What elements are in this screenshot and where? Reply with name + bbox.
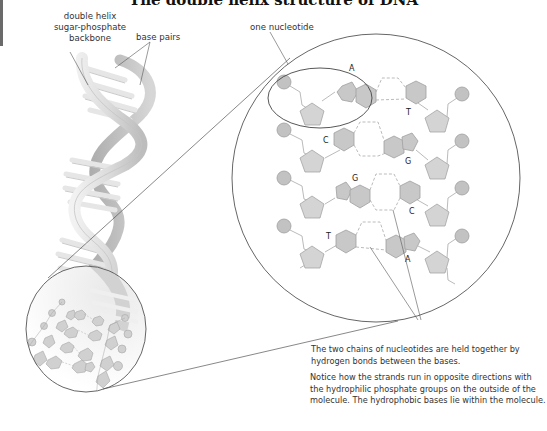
- phosphate: [455, 229, 469, 243]
- phosphate: [277, 171, 291, 185]
- phosphate: [277, 75, 291, 89]
- phosphate: [455, 87, 469, 101]
- phosphate: [277, 219, 291, 233]
- backbone-label: double helix sugar-phosphate backbone: [40, 11, 140, 44]
- base-pairs-label: base pairs: [136, 32, 180, 43]
- phosphate: [455, 181, 469, 195]
- one-nucleotide-label: one nucleotide: [250, 22, 314, 33]
- base-letter-c: C: [323, 136, 329, 145]
- small-zoom-circle: [20, 262, 146, 400]
- backbone-label-line-2: sugar-phosphate: [40, 22, 140, 33]
- base-letter-c: C: [409, 207, 415, 216]
- base-g-hexagon: [384, 136, 404, 158]
- big-zoom-circle: [232, 34, 520, 322]
- phosphate: [455, 134, 469, 148]
- phosphate: [277, 123, 291, 137]
- backbone-label-line-1: double helix: [40, 11, 140, 22]
- base-letter-g: G: [405, 157, 411, 166]
- hydrogen-bonds-caption: The two chains of nucleotides are held t…: [311, 344, 547, 367]
- base-letter-a: A: [349, 64, 354, 73]
- base-letter-a: A: [405, 255, 410, 264]
- orientation-caption: Notice how the strands run in opposite d…: [310, 372, 547, 407]
- base-letter-t: T: [326, 232, 331, 241]
- backbone-label-line-3: backbone: [40, 33, 140, 44]
- base-letter-g: G: [352, 174, 358, 183]
- base-letter-t: T: [406, 108, 411, 117]
